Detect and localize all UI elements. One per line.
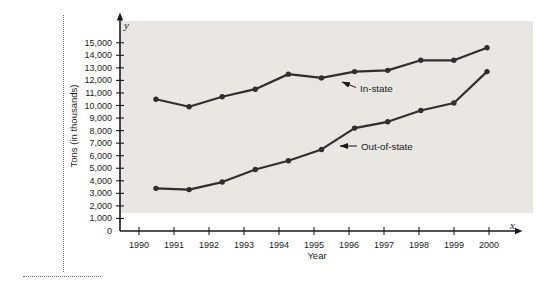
- y-tick-label: 3,000: [89, 188, 112, 198]
- data-point: [286, 158, 291, 163]
- x-tick-label: 1994: [269, 240, 289, 250]
- x-tick-label: 1997: [374, 240, 394, 250]
- x-tick-label: 1990: [129, 240, 149, 250]
- y-tick-label: 0: [107, 226, 112, 236]
- x-tick-label: 1996: [339, 240, 359, 250]
- data-point: [451, 100, 456, 105]
- y-axis-arrowhead-icon: [117, 13, 123, 21]
- data-point: [286, 71, 291, 76]
- x-tick-label: 1999: [444, 240, 464, 250]
- x-tick-label: 1991: [164, 240, 184, 250]
- y-tick-label: 12,000: [84, 75, 112, 85]
- data-point: [220, 94, 225, 99]
- data-point: [253, 86, 258, 91]
- x-tick-label: 1995: [304, 240, 324, 250]
- data-point: [451, 58, 456, 63]
- x-tick-label: 2000: [479, 240, 499, 250]
- y-tick-label: 11,000: [85, 88, 112, 98]
- data-point: [385, 119, 390, 124]
- y-tick-label: 6,000: [89, 151, 112, 161]
- y-axis-title: Tons (in thousands): [68, 85, 79, 168]
- y-tick-label: 8,000: [89, 126, 112, 136]
- figure-canvas: 01,0002,0003,0004,0005,0006,0007,0008,00…: [0, 0, 549, 289]
- y-tick-label: 2,000: [89, 201, 112, 211]
- data-point: [319, 147, 324, 152]
- data-point: [220, 179, 225, 184]
- data-point: [253, 167, 258, 172]
- y-tick-label: 15,000: [84, 38, 112, 48]
- y-tick-label: 10,000: [84, 101, 112, 111]
- data-point: [186, 104, 191, 109]
- x-tick-label: 1998: [409, 240, 429, 250]
- x-tick-label: 1992: [199, 240, 219, 250]
- y-tick-label: 7,000: [89, 138, 112, 148]
- y-tick-label: 4,000: [89, 176, 112, 186]
- data-point: [484, 69, 489, 74]
- data-point: [418, 108, 423, 113]
- data-point: [186, 187, 191, 192]
- y-axis-ticks: 01,0002,0003,0004,0005,0006,0007,0008,00…: [84, 38, 124, 236]
- data-point: [153, 186, 158, 191]
- data-point: [418, 58, 423, 63]
- data-point: [352, 69, 357, 74]
- plot-area-background: [121, 21, 534, 213]
- data-point: [385, 68, 390, 73]
- out-of-state-label: Out-of-state: [361, 141, 413, 152]
- x-axis-symbol: x: [509, 219, 515, 231]
- y-tick-label: 5,000: [89, 163, 112, 173]
- data-point: [352, 125, 357, 130]
- y-tick-label: 14,000: [84, 50, 112, 60]
- data-point: [319, 75, 324, 80]
- y-tick-label: 13,000: [84, 63, 112, 73]
- data-point: [153, 97, 158, 102]
- y-tick-label: 1,000: [89, 213, 112, 223]
- x-axis-arrowhead-icon: [515, 228, 523, 234]
- line-chart: 01,0002,0003,0004,0005,0006,0007,0008,00…: [0, 0, 549, 289]
- y-axis-symbol: y: [123, 19, 129, 31]
- in-state-label: In-state: [360, 83, 393, 94]
- x-axis: [120, 228, 523, 234]
- x-tick-label: 1993: [234, 240, 254, 250]
- data-point: [484, 45, 489, 50]
- x-axis-title: Year: [307, 250, 326, 261]
- y-tick-label: 9,000: [89, 113, 112, 123]
